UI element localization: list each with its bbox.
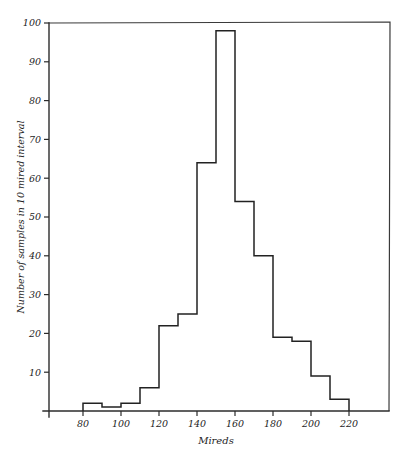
- x-tick-label: 140: [188, 418, 206, 429]
- y-tick-label: 60: [29, 173, 41, 184]
- y-tick-label: 30: [29, 289, 41, 300]
- y-tick-label: 20: [28, 328, 41, 339]
- y-tick-label: 10: [29, 367, 41, 378]
- y-tick-label: 90: [29, 56, 41, 67]
- x-tick-label: 220: [339, 418, 358, 429]
- y-tick-label: 70: [29, 134, 41, 145]
- chart-canvas: 1020304050607080901008010012014016018020…: [0, 0, 405, 449]
- plot-frame: [49, 22, 390, 411]
- y-tick-label: 100: [23, 17, 41, 28]
- y-tick-label: 80: [29, 95, 41, 106]
- histogram-figure: 1020304050607080901008010012014016018020…: [0, 0, 405, 449]
- y-tick-label: 40: [28, 250, 41, 261]
- x-tick-label: 180: [264, 418, 282, 429]
- x-axis-label: Mireds: [197, 435, 234, 446]
- x-tick-label: 160: [226, 418, 244, 429]
- y-tick-label: 50: [29, 211, 41, 222]
- x-axis-ticks: 80100120140160180200220: [77, 411, 358, 429]
- y-axis-label: Number of samples in 10 mired interval: [15, 121, 26, 315]
- x-tick-label: 80: [77, 418, 89, 429]
- x-tick-label: 200: [301, 418, 320, 429]
- x-tick-label: 120: [150, 418, 168, 429]
- y-axis-ticks: 102030405060708090100: [23, 17, 49, 377]
- x-tick-label: 100: [112, 418, 130, 429]
- histogram-outline: [83, 31, 349, 411]
